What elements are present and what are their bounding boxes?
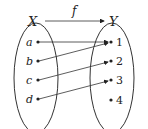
codomain-set-Y <box>90 23 134 129</box>
domain-element-d: d <box>26 93 33 106</box>
domain-label: X <box>27 14 38 29</box>
dot-3 <box>109 78 112 81</box>
dot-4 <box>109 98 112 101</box>
domain-element-c: c <box>26 74 32 87</box>
arrow-c-to-2 <box>39 62 108 80</box>
dot-2 <box>109 59 112 62</box>
codomain-element-1: 1 <box>116 36 123 49</box>
mapping-diagram: X Y f a b c d 1 2 3 4 <box>0 0 148 129</box>
dot-1 <box>109 40 112 43</box>
codomain-element-4: 4 <box>116 94 123 107</box>
codomain-element-2: 2 <box>116 55 123 68</box>
domain-element-b: b <box>26 55 33 68</box>
codomain-element-3: 3 <box>116 74 123 87</box>
function-label: f <box>71 4 79 18</box>
arrow-d-to-3 <box>39 81 108 99</box>
codomain-label: Y <box>109 14 119 29</box>
domain-set-X <box>14 23 58 129</box>
arrow-b-to-1 <box>39 43 108 61</box>
domain-element-a: a <box>26 36 33 49</box>
